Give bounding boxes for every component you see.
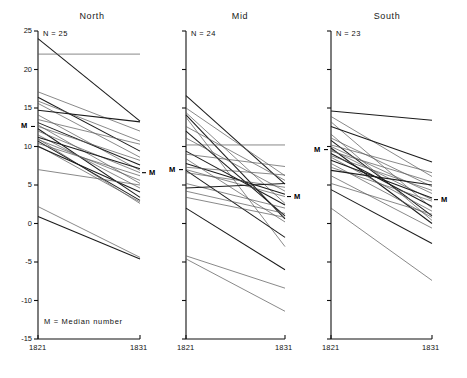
slope-line bbox=[186, 163, 285, 194]
sample-size-label-south: N = 23 bbox=[336, 29, 361, 38]
panel-title-north: North bbox=[52, 11, 132, 21]
y-tick-label-20: 20 bbox=[8, 65, 32, 74]
slope-line bbox=[331, 148, 432, 223]
slope-line bbox=[186, 259, 285, 311]
slope-line bbox=[38, 170, 140, 185]
slope-line bbox=[331, 116, 432, 176]
median-label-left-south: M bbox=[314, 145, 320, 154]
slope-line bbox=[38, 131, 140, 173]
panel-title-south: South bbox=[347, 11, 427, 21]
slope-line bbox=[331, 176, 432, 228]
slope-line bbox=[38, 110, 140, 122]
median-footnote: M = Median number bbox=[44, 317, 123, 326]
panel-title-mid: Mid bbox=[200, 11, 280, 21]
sample-size-label-north: N = 25 bbox=[43, 29, 68, 38]
x-tick-label-1821-south: 1821 bbox=[322, 343, 340, 352]
slope-line bbox=[186, 126, 285, 180]
y-tick-label-neg15: -15 bbox=[8, 334, 32, 343]
slope-line bbox=[186, 191, 285, 213]
sample-size-label-mid: N = 24 bbox=[191, 29, 216, 38]
slope-line bbox=[38, 101, 140, 141]
slope-line bbox=[331, 111, 432, 120]
slope-line bbox=[331, 170, 432, 185]
slope-line bbox=[331, 190, 432, 244]
y-tick-label-5: 5 bbox=[8, 180, 32, 189]
y-tick-label-neg5: -5 bbox=[8, 257, 32, 266]
median-label-right-south: M bbox=[441, 195, 447, 204]
slope-line bbox=[186, 197, 285, 217]
x-tick-label-1831-north: 1831 bbox=[130, 343, 148, 352]
y-tick-label-15: 15 bbox=[8, 103, 32, 112]
x-tick-label-1831-mid: 1831 bbox=[275, 343, 293, 352]
y-tick-label-25: 25 bbox=[8, 26, 32, 35]
slope-line bbox=[38, 207, 140, 258]
y-tick-label-neg10: -10 bbox=[8, 296, 32, 305]
y-tick-label-10: 10 bbox=[8, 142, 32, 151]
slope-line bbox=[38, 123, 140, 165]
median-label-left-mid: M bbox=[169, 165, 175, 174]
slope-line bbox=[186, 183, 285, 188]
slope-line bbox=[331, 163, 432, 217]
slope-line bbox=[331, 126, 432, 161]
x-tick-label-1821-mid: 1821 bbox=[177, 343, 195, 352]
x-tick-label-1831-south: 1831 bbox=[422, 343, 440, 352]
slope-line bbox=[186, 151, 285, 205]
slope-line bbox=[38, 140, 140, 181]
y-tick-label-0: 0 bbox=[8, 219, 32, 228]
median-label-right-north: M bbox=[149, 168, 155, 177]
median-label-left-north: M bbox=[21, 121, 27, 130]
x-tick-label-1821-north: 1821 bbox=[29, 343, 47, 352]
slope-line bbox=[38, 129, 140, 198]
slope-line bbox=[38, 39, 140, 121]
figure-root: NorthN = 252520151050-5-10-1518211831MMM… bbox=[0, 0, 467, 378]
slope-line bbox=[186, 108, 285, 176]
median-label-right-mid: M bbox=[294, 192, 300, 201]
slope-line bbox=[331, 208, 432, 280]
slope-line bbox=[38, 217, 140, 259]
